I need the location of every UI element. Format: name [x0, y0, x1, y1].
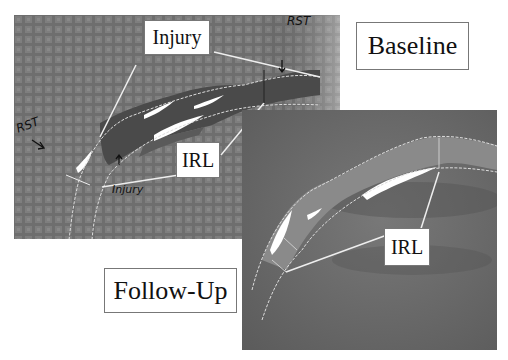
followup-label: Follow-Up: [104, 268, 237, 313]
injury-label: Injury: [144, 20, 210, 55]
handwritten-injury: Injury: [112, 183, 143, 196]
irl-label-baseline: IRL: [176, 142, 220, 178]
irl-label-followup: IRL: [384, 228, 430, 266]
followup-image: [242, 110, 497, 350]
baseline-label: Baseline: [356, 22, 469, 70]
handwritten-rst-top: RST: [287, 14, 310, 28]
